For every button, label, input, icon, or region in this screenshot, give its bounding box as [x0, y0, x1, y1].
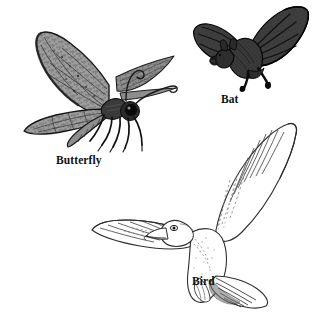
bat-label: Bat — [221, 93, 239, 105]
illustration-plate: Butterfly — [0, 0, 321, 320]
bat-illustration — [186, 6, 310, 92]
bird-label: Bird — [192, 275, 215, 287]
bat-body-group — [194, 7, 309, 92]
